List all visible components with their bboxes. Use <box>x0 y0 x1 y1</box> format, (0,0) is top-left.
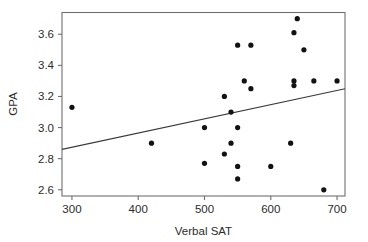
x-tick-label: 500 <box>195 203 214 215</box>
regression-line-segment <box>62 89 345 150</box>
regression-line <box>62 89 345 150</box>
data-point <box>202 125 207 130</box>
y-tick-label: 2.6 <box>38 184 54 196</box>
data-point <box>222 151 227 156</box>
plot-canvas: 2.62.83.03.23.43.6 300400500600700 Verba… <box>0 0 368 242</box>
y-tick-label: 3.2 <box>38 90 54 102</box>
data-point <box>69 105 74 110</box>
data-point <box>291 30 296 35</box>
data-point <box>291 78 296 83</box>
x-tick-label: 400 <box>129 203 148 215</box>
data-point <box>301 47 306 52</box>
data-point <box>291 83 296 88</box>
data-point <box>228 141 233 146</box>
x-axis-tick-labels: 300400500600700 <box>62 203 346 215</box>
y-axis-tick-marks <box>58 34 62 190</box>
data-point <box>334 78 339 83</box>
data-point <box>228 109 233 114</box>
data-point <box>295 16 300 21</box>
x-tick-label: 700 <box>327 203 346 215</box>
data-point <box>268 164 273 169</box>
data-point <box>248 86 253 91</box>
data-point <box>202 161 207 166</box>
scatter-plot-figure: 2.62.83.03.23.43.6 300400500600700 Verba… <box>0 0 368 242</box>
y-axis-title: GPA <box>7 92 19 116</box>
data-points <box>69 16 339 192</box>
data-point <box>235 43 240 48</box>
data-point <box>321 187 326 192</box>
x-axis-tick-marks <box>72 196 337 200</box>
plot-frame <box>62 13 345 197</box>
data-point <box>235 125 240 130</box>
data-point <box>235 164 240 169</box>
y-axis-tick-labels: 2.62.83.03.23.43.6 <box>38 28 55 196</box>
y-tick-label: 3.6 <box>38 28 54 40</box>
y-tick-label: 3.4 <box>38 59 55 71</box>
x-tick-label: 600 <box>261 203 280 215</box>
y-tick-label: 3.0 <box>38 122 54 134</box>
data-point <box>288 141 293 146</box>
data-point <box>311 78 316 83</box>
data-point <box>248 43 253 48</box>
x-tick-label: 300 <box>62 203 81 215</box>
data-point <box>222 94 227 99</box>
data-point <box>235 176 240 181</box>
data-point <box>242 78 247 83</box>
y-tick-label: 2.8 <box>38 153 54 165</box>
x-axis-title: Verbal SAT <box>175 225 232 237</box>
data-point <box>149 141 154 146</box>
